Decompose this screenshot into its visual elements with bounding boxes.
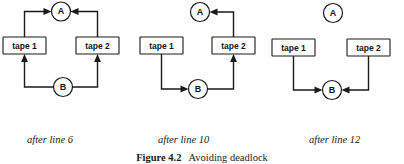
tape-2-label: tape 2 xyxy=(356,43,381,53)
tape-1-label: tape 1 xyxy=(281,43,306,53)
edge-b-to-tape2 xyxy=(208,54,237,89)
figure-container: tape 1 tape 2 A B xyxy=(0,0,404,164)
arrowhead-icon xyxy=(94,54,101,62)
edge-tape1-to-b xyxy=(162,54,189,92)
figure-number: Figure 4.2 xyxy=(136,152,181,163)
arrowhead-icon xyxy=(342,87,350,94)
figure-caption: Figure 4.2Avoiding deadlock xyxy=(0,152,404,163)
process-a-label: A xyxy=(58,6,65,16)
edge-tape1-to-a xyxy=(25,8,52,37)
arrowhead-icon xyxy=(230,54,237,62)
arrowhead-icon xyxy=(71,8,79,15)
node-tape-1: tape 1 xyxy=(140,37,183,54)
diagram-after-line-12: tape 1 tape 2 A B xyxy=(268,0,404,120)
arrowhead-icon xyxy=(210,9,218,16)
process-b-label: B xyxy=(329,85,336,95)
process-b-label: B xyxy=(195,84,202,94)
sub-caption-after-line-6: after line 6 xyxy=(27,134,73,145)
edge-b-to-tape2 xyxy=(73,54,101,87)
node-tape-2: tape 2 xyxy=(347,39,390,56)
diagram-after-line-6: tape 1 tape 2 A B xyxy=(0,0,135,120)
figure-title: Avoiding deadlock xyxy=(181,152,267,163)
node-tape-2: tape 2 xyxy=(212,37,255,54)
node-process-b: B xyxy=(323,81,342,100)
sub-caption-after-line-10: after line 10 xyxy=(158,134,209,145)
node-process-a: A xyxy=(324,4,343,23)
diagram-after-line-10: tape 1 tape 2 A B xyxy=(136,0,268,120)
tape-2-label: tape 2 xyxy=(221,41,246,51)
tape-1-label: tape 1 xyxy=(12,41,37,51)
arrowhead-icon xyxy=(315,87,323,94)
arrowhead-icon xyxy=(44,8,52,15)
edge-tape2-to-b xyxy=(342,56,369,93)
tape-1-label: tape 1 xyxy=(149,41,174,51)
node-process-a: A xyxy=(191,3,210,22)
edge-tape1-to-b xyxy=(294,56,323,93)
process-b-label: B xyxy=(60,82,67,92)
process-a-label: A xyxy=(197,7,204,17)
arrowhead-icon xyxy=(181,86,189,93)
tape-2-label: tape 2 xyxy=(85,41,110,51)
sub-caption-after-line-12: after line 12 xyxy=(309,134,360,145)
edge-tape2-to-a xyxy=(210,9,234,37)
edge-tape2-to-a xyxy=(71,8,98,37)
node-tape-1: tape 1 xyxy=(272,39,315,56)
node-process-b: B xyxy=(189,80,208,99)
edge-b-to-tape1 xyxy=(21,54,53,87)
node-process-b: B xyxy=(54,78,73,97)
node-tape-2: tape 2 xyxy=(76,37,119,54)
arrowhead-icon xyxy=(21,54,28,62)
node-tape-1: tape 1 xyxy=(3,37,46,54)
node-process-a: A xyxy=(52,2,71,21)
sub-caption-row: after line 6 after line 10 after line 12 xyxy=(0,134,404,150)
process-a-label: A xyxy=(330,8,337,18)
